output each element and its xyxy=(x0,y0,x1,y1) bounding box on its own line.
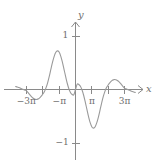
axes-group xyxy=(4,22,143,160)
plot-canvas xyxy=(0,0,159,168)
x-tick-label: −π xyxy=(53,97,66,106)
x-tick-label: π xyxy=(89,97,95,106)
x-axis-label: x xyxy=(146,84,152,94)
y-tick-label: −1 xyxy=(56,138,69,147)
x-tick-label: 3π xyxy=(119,97,131,106)
x-tick-label: −3π xyxy=(17,97,36,106)
y-tick-label: 1 xyxy=(63,31,69,40)
plot-figure: −3π−ππ3π 1−1 x y xyxy=(0,0,159,168)
y-axis-label: y xyxy=(78,10,84,20)
